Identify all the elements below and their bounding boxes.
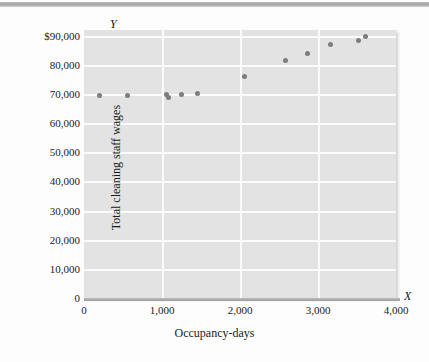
y-tick-label: 10,000	[6, 264, 80, 275]
x-tick-label: 3,000	[288, 305, 348, 316]
x-tick-label: 0	[54, 305, 114, 316]
x-tick-label: 4,000	[366, 305, 426, 316]
y-axis-symbol: Y	[110, 17, 117, 32]
y-tick-label: 60,000	[6, 118, 80, 129]
y-axis-title-holder: Total cleaning staff wages	[100, 10, 101, 11]
data-point	[328, 42, 333, 47]
y-tick-label: 30,000	[6, 206, 80, 217]
data-point	[305, 51, 310, 56]
x-axis-symbol: X	[404, 289, 411, 304]
data-point	[283, 58, 288, 63]
y-tick-label: 20,000	[6, 235, 80, 246]
data-point	[97, 93, 102, 98]
data-point	[179, 92, 184, 97]
data-point	[363, 34, 368, 39]
x-axis-line	[84, 298, 400, 301]
y-tick-label: 80,000	[6, 60, 80, 71]
data-point	[125, 93, 130, 98]
y-tick-label: 70,000	[6, 89, 80, 100]
data-point	[242, 74, 247, 79]
x-axis-title: Occupancy-days	[0, 326, 429, 341]
x-tick-label: 2,000	[210, 305, 270, 316]
figure-canvas: 010,00020,00030,00040,00050,00060,00070,…	[0, 0, 429, 362]
y-tick-label: 40,000	[6, 176, 80, 187]
data-point	[166, 95, 171, 100]
plot-panel	[84, 30, 396, 298]
plot-area	[84, 30, 396, 298]
gridline-vertical	[318, 30, 320, 298]
y-axis-title: Total cleaning staff wages	[109, 78, 124, 258]
y-tick-label: 0	[6, 293, 80, 304]
y-tick-label: $90,000	[6, 31, 80, 42]
y-tick-label: 50,000	[6, 147, 80, 158]
data-point	[356, 38, 361, 43]
gridline-vertical	[240, 30, 242, 298]
gridline-vertical	[162, 30, 164, 298]
data-point	[195, 91, 200, 96]
x-tick-label: 1,000	[132, 305, 192, 316]
